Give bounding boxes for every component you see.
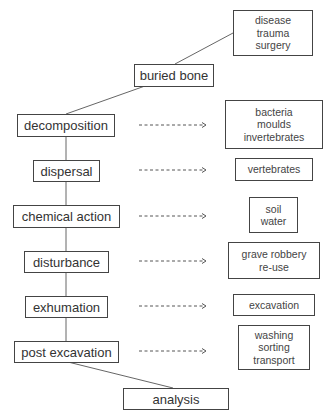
arrowhead-icon [202,123,206,128]
agent-box-post-excavation: washing sorting transport [238,325,310,370]
agent-label: bacteria [255,106,292,119]
stage-label: exhumation [33,300,100,315]
stage-label: decomposition [24,118,108,133]
stage-disturbance: disturbance [24,251,109,273]
stage-exhumation: exhumation [25,296,108,318]
line-post-excavation-to-analysis [68,362,173,388]
agent-label: disease [255,14,291,27]
line-buried-bone-to-decomposition [66,86,145,114]
stage-label: dispersal [40,164,92,179]
stage-post-excavation: post excavation [14,341,119,363]
line-antemortem-to-buried-bone [175,33,233,64]
stage-label: chemical action [22,209,112,224]
agent-label: soil [266,203,282,216]
agent-label: re-use [259,261,289,274]
stage-label: disturbance [33,255,100,270]
stage-label: post excavation [21,345,111,360]
agent-label: excavation [249,299,299,312]
stage-label: analysis [153,392,200,407]
stage-chemical-action: chemical action [13,205,120,228]
stage-dispersal: dispersal [33,160,100,182]
agent-box-antemortem: disease trauma surgery [233,10,313,56]
agent-label: vertebrates [248,163,301,176]
agent-label: transport [253,354,294,367]
arrowhead-icon [202,259,206,264]
agent-label: invertebrates [244,131,305,144]
stage-buried-bone: buried bone [134,64,214,87]
arrowhead-icon [202,168,206,173]
agent-label: trauma [257,27,290,40]
agent-box-decomposition: bacteria moulds invertebrates [225,100,323,149]
agent-label: moulds [257,118,291,131]
agent-box-exhumation: excavation [233,294,315,316]
agent-label: sorting [258,341,290,354]
agent-label: washing [255,329,294,342]
agent-label: water [261,215,287,228]
agent-box-chemical-action: soil water [249,197,298,233]
arrowhead-icon [202,214,206,219]
stage-label: buried bone [140,68,209,83]
agent-label: grave robbery [242,248,307,261]
agent-label: surgery [255,39,290,52]
stage-decomposition: decomposition [17,114,115,137]
arrowhead-icon [202,304,206,309]
arrowhead-icon [202,349,206,354]
stage-analysis: analysis [123,388,229,410]
agent-box-dispersal: vertebrates [235,158,313,181]
agent-box-disturbance: grave robbery re-use [228,242,320,279]
